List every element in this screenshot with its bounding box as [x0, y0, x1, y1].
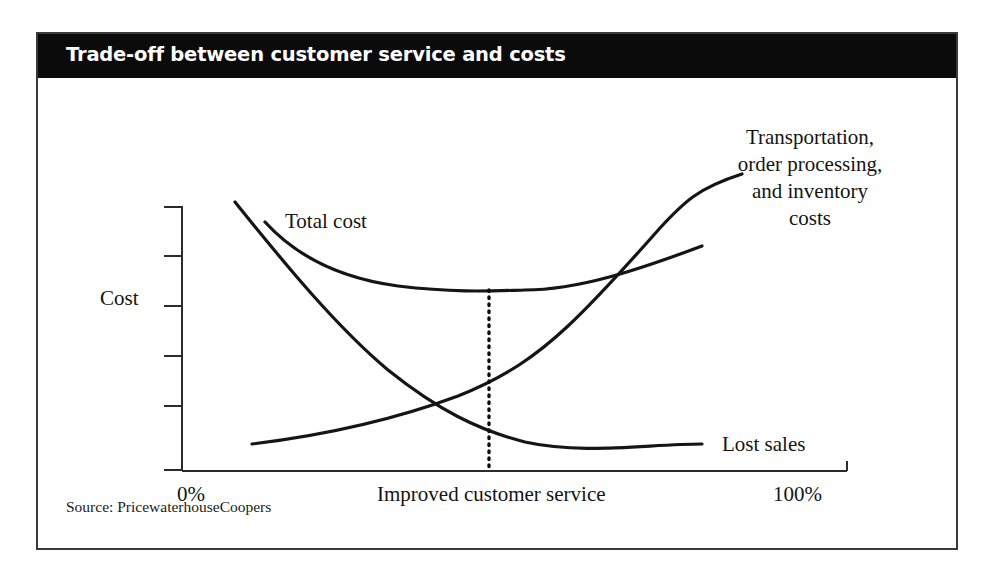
series-label-total-cost: Total cost [285, 209, 367, 233]
figure-container: Trade-off between customer service and c… [36, 32, 958, 550]
y-axis-title: Cost [100, 286, 139, 310]
x-axis-title: Improved customer service [377, 482, 606, 506]
annotation-transport-line-3: and inventory [752, 179, 869, 203]
series-lost-sales-curve [235, 202, 702, 448]
figure-title: Trade-off between customer service and c… [66, 43, 566, 66]
annotation-transport-line-2: order processing, [738, 152, 883, 176]
source-note: Source: PricewaterhouseCoopers [66, 498, 271, 516]
figure-title-bar: Trade-off between customer service and c… [38, 34, 956, 78]
series-label-lost-sales: Lost sales [722, 432, 805, 456]
plot-area: Cost Improved customer service 0% 100% T… [38, 78, 956, 552]
annotation-transport-line-4: costs [789, 206, 831, 230]
x-axis-max-label: 100% [773, 482, 822, 506]
chart-svg: Cost Improved customer service 0% 100% T… [38, 78, 956, 552]
annotation-transport-line-1: Transportation, [746, 125, 874, 149]
